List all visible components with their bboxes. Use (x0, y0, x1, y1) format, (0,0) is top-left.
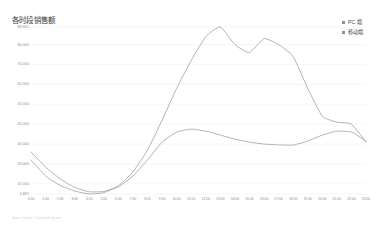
x-axis-tick-label: 0:00 (28, 197, 35, 201)
x-axis-tick-label: 20:00 (318, 197, 327, 201)
x-axis: 0:001:002:003:004:005:006:007:008:009:00… (0, 0, 376, 237)
x-axis-tick-label: 4:00 (86, 197, 93, 201)
x-axis-tick-label: 2:00 (57, 197, 64, 201)
x-axis-tick-label: 16:00 (260, 197, 269, 201)
x-axis-tick-label: 9:00 (159, 197, 166, 201)
x-axis-tick-label: 11:00 (187, 197, 195, 201)
x-axis-tick-label: 15:00 (245, 197, 254, 201)
x-axis-tick-label: 19:00 (303, 197, 312, 201)
x-axis-tick-label: 5:00 (101, 197, 108, 201)
x-axis-tick-label: 22:00 (347, 197, 356, 201)
x-axis-tick-label: 23:00 (362, 197, 371, 201)
x-axis-tick-label: 3:00 (71, 197, 78, 201)
x-axis-tick-label: 7:00 (130, 197, 137, 201)
x-axis-tick-label: 1:00 (42, 197, 49, 201)
x-axis-tick-label: 8:00 (144, 197, 151, 201)
x-axis-tick-label: 17:00 (274, 197, 283, 201)
x-axis-tick-label: 18:00 (289, 197, 298, 201)
footnote: Store Details Chart built by me (12, 216, 61, 220)
plot-area: 88,84180,00070,00060,00050,00040,00030,0… (0, 0, 376, 237)
x-axis-tick-label: 13:00 (216, 197, 225, 201)
chart-card: 各时段销售额 PC 端 移动端 88,84180,00070,00060,000… (0, 0, 376, 237)
x-axis-tick-label: 10:00 (172, 197, 181, 201)
x-axis-tick-label: 14:00 (231, 197, 240, 201)
x-axis-tick-label: 21:00 (333, 197, 342, 201)
x-axis-tick-label: 12:00 (202, 197, 211, 201)
x-axis-tick-label: 6:00 (115, 197, 122, 201)
